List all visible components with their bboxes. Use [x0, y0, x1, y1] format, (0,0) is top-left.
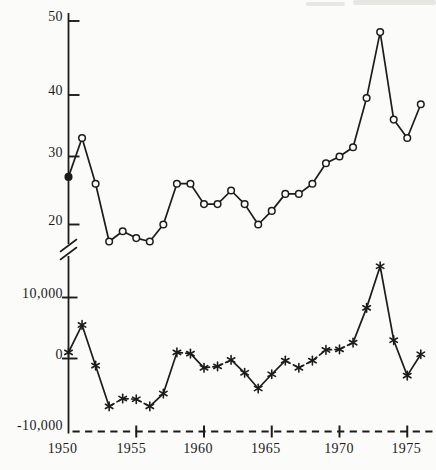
asterisk-marker [349, 338, 356, 347]
circle-marker [390, 116, 397, 123]
circle-marker [228, 187, 235, 194]
circle-marker [282, 191, 289, 198]
circle-marker [268, 208, 275, 215]
asterisk-marker [295, 363, 302, 372]
circle-marker [174, 180, 181, 187]
circle-marker [119, 228, 126, 235]
circle-marker [323, 160, 330, 167]
lower-series-markers [65, 262, 425, 411]
circle-marker [92, 180, 99, 187]
y-axis-ticks [62, 21, 80, 359]
circle-marker [363, 95, 370, 102]
circle-marker [201, 201, 208, 208]
circle-marker [418, 101, 425, 108]
upper-series-markers [65, 29, 424, 245]
upper-series-line [69, 32, 421, 241]
circle-marker [187, 180, 194, 187]
asterisk-marker [390, 336, 397, 345]
circle-marker [214, 201, 221, 208]
asterisk-marker [92, 361, 99, 370]
upper-axis-tick-label: 20 [0, 214, 63, 228]
upper-axis-tick-label: 30 [0, 146, 63, 160]
circle-marker [241, 201, 248, 208]
scanned-chart-page: 2030405010,0000-10,000195019551960196519… [0, 0, 436, 470]
upper-axis-tick-label: 40 [0, 84, 63, 98]
circle-marker [106, 238, 113, 245]
circle-marker [133, 235, 140, 242]
circle-marker [309, 180, 316, 187]
asterisk-marker [65, 348, 72, 357]
upper-axis-tick-label: 50 [0, 10, 63, 24]
asterisk-marker [363, 304, 370, 313]
circle-marker [377, 29, 384, 36]
circle-marker [79, 135, 86, 142]
circle-marker [404, 135, 411, 142]
x-axis-baseline [73, 426, 435, 438]
lower-series-line [69, 266, 421, 406]
circle-marker [147, 238, 154, 245]
circle-marker [65, 174, 72, 181]
lower-axis-tick-label: 0 [0, 348, 63, 362]
x-axis-tick-label: 1950 [33, 442, 93, 456]
x-axis-tick-label: 1965 [236, 442, 296, 456]
asterisk-marker [105, 402, 112, 411]
dual-panel-line-chart [0, 0, 436, 470]
x-axis-tick-label: 1955 [101, 442, 161, 456]
circle-marker [160, 221, 167, 228]
x-axis-tick-label: 1970 [309, 442, 369, 456]
circle-marker [336, 153, 343, 160]
asterisk-marker [78, 321, 85, 330]
lower-axis-tick-label: 10,000 [0, 287, 63, 301]
lower-axis-tick-label: -10,000 [0, 419, 63, 433]
circle-marker [255, 221, 262, 228]
x-axis-tick-label: 1975 [376, 442, 436, 456]
circle-marker [350, 144, 357, 151]
asterisk-marker [376, 262, 383, 271]
x-axis-tick-label: 1960 [168, 442, 228, 456]
circle-marker [296, 191, 303, 198]
